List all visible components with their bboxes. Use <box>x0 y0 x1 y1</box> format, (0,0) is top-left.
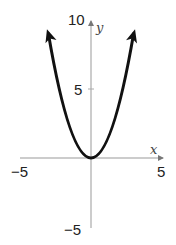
x-label-5: 5 <box>157 163 165 180</box>
y-label-neg5: −5 <box>64 221 81 238</box>
y-label-5: 5 <box>74 81 82 98</box>
x-axis-variable: x <box>150 142 158 157</box>
parabola-graph: 10 5 −5 −5 5 y x <box>0 0 176 245</box>
x-label-neg5: −5 <box>11 163 28 180</box>
y-label-10: 10 <box>68 11 85 28</box>
y-axis-variable: y <box>95 20 104 35</box>
